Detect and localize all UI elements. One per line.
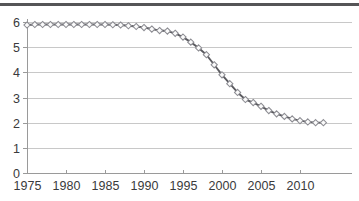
x-tick-label-1975: 1975 bbox=[14, 179, 42, 193]
data-point-marker bbox=[305, 119, 311, 125]
line-chart: 0123456 19751980198519901995200020052010 bbox=[0, 0, 359, 201]
series-group bbox=[27, 25, 323, 123]
data-point-marker bbox=[289, 116, 295, 122]
x-tick-label-2010: 2010 bbox=[287, 179, 315, 193]
data-point-marker bbox=[297, 118, 303, 124]
figure-container: 0123456 19751980198519901995200020052010 bbox=[0, 0, 359, 201]
x-tick-label-1990: 1990 bbox=[131, 179, 159, 193]
data-point-marker bbox=[125, 23, 131, 29]
markers-group bbox=[24, 21, 327, 125]
data-point-marker bbox=[320, 120, 326, 126]
series-line-path bbox=[27, 25, 323, 123]
data-point-marker bbox=[274, 111, 280, 117]
data-point-marker bbox=[157, 27, 163, 33]
x-tick-label-1980: 1980 bbox=[53, 179, 81, 193]
data-point-marker bbox=[149, 26, 155, 32]
data-point-marker bbox=[133, 23, 139, 29]
y-tick-label-1: 1 bbox=[13, 142, 20, 156]
data-point-marker bbox=[141, 24, 147, 30]
y-tick-label-6: 6 bbox=[13, 16, 20, 30]
y-tick-label-5: 5 bbox=[13, 41, 20, 55]
data-point-marker bbox=[313, 120, 319, 126]
ytick-labels-group: 0123456 bbox=[13, 16, 20, 181]
x-tick-label-1995: 1995 bbox=[170, 179, 198, 193]
data-point-marker bbox=[250, 99, 256, 105]
y-tick-label-3: 3 bbox=[13, 92, 20, 106]
y-tick-label-2: 2 bbox=[13, 117, 20, 131]
chart-plot-area: 0123456 19751980198519901995200020052010 bbox=[0, 0, 359, 201]
data-point-marker bbox=[164, 28, 170, 34]
data-point-marker bbox=[281, 113, 287, 119]
y-tick-label-4: 4 bbox=[13, 66, 20, 80]
x-tick-label-1985: 1985 bbox=[92, 179, 120, 193]
data-point-marker bbox=[172, 30, 178, 36]
x-tick-label-2005: 2005 bbox=[248, 179, 276, 193]
x-tick-label-2000: 2000 bbox=[209, 179, 237, 193]
xtick-labels-group: 19751980198519901995200020052010 bbox=[14, 179, 315, 193]
